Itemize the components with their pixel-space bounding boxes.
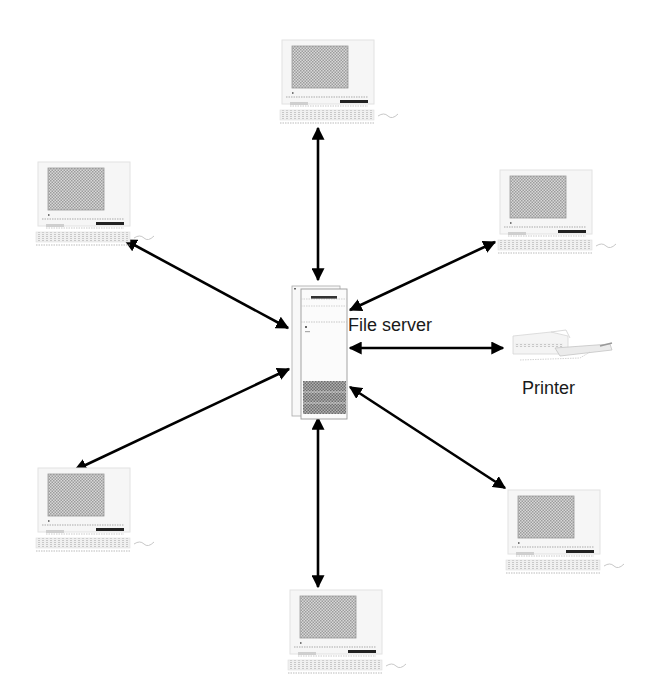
network-diagram — [0, 0, 660, 691]
workstation-bottom-icon — [288, 590, 406, 673]
connections — [75, 128, 505, 587]
file-server-label: File server — [348, 315, 432, 336]
workstation-upper-right-icon — [498, 170, 616, 253]
link-server-pc-upper-right — [350, 242, 495, 310]
workstation-lower-right-icon — [506, 490, 624, 573]
workstation-top-icon — [280, 40, 398, 123]
file-server-icon — [292, 286, 347, 419]
link-server-pc-lower-left — [75, 369, 289, 470]
link-server-pc-lower-right — [350, 387, 505, 488]
printer-icon — [513, 330, 612, 360]
link-server-pc-upper-left — [125, 240, 288, 328]
printer-label: Printer — [522, 378, 575, 399]
workstation-upper-left-icon — [36, 162, 154, 245]
workstation-lower-left-icon — [36, 468, 154, 551]
